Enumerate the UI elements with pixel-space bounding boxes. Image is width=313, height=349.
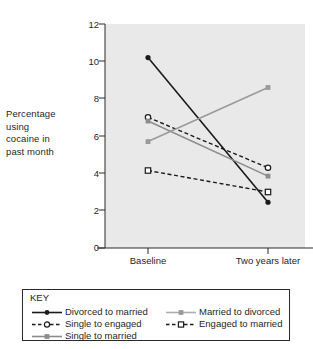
data-point xyxy=(266,174,271,179)
data-point xyxy=(145,55,150,60)
legend-label-divorced-to-married: Divorced to married xyxy=(65,306,148,317)
plot-area xyxy=(0,0,313,280)
data-point xyxy=(146,119,151,124)
legend-swatch-engaged-to-married xyxy=(165,319,197,330)
legend-swatch-single-to-engaged xyxy=(31,319,63,330)
data-point xyxy=(145,168,150,173)
legend-swatch-divorced-to-married xyxy=(31,307,63,318)
legend-label-single-to-married: Single to married xyxy=(65,330,137,341)
legend-label-single-to-engaged: Single to engaged xyxy=(65,318,142,329)
legend-swatch-single-to-married xyxy=(31,331,63,342)
cocaine-use-line-chart: Percentage using cocaine in past month 1… xyxy=(0,0,313,349)
data-point xyxy=(265,200,270,205)
data-point xyxy=(265,189,270,194)
data-point xyxy=(265,165,270,170)
data-point xyxy=(146,139,151,144)
legend-label-engaged-to-married: Engaged to married xyxy=(199,318,282,329)
plot-background xyxy=(105,24,305,248)
data-point xyxy=(266,85,271,90)
legend-swatch-married-to-divorced xyxy=(165,307,197,318)
legend-box: KEY Divorced to married Single to engage… xyxy=(22,289,290,341)
legend-label-married-to-divorced: Married to divorced xyxy=(199,306,280,317)
legend-title: KEY xyxy=(30,292,49,303)
